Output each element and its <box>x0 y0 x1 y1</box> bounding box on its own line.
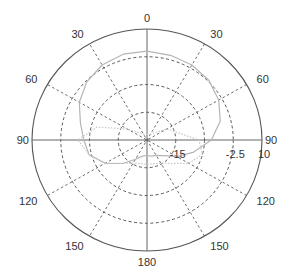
polar-grid <box>32 29 262 251</box>
angle-tick-label: 150 <box>210 240 228 252</box>
radial-tick-label: 10 <box>258 148 270 160</box>
angle-tick-label: 120 <box>19 195 37 207</box>
polar-plot: 0306090120150180150120906030-15-2.510 <box>0 0 289 276</box>
angle-tick-label: 60 <box>25 73 37 85</box>
angle-tick-label: 60 <box>257 73 269 85</box>
radial-tick-label: -15 <box>170 148 186 160</box>
angle-tick-label: 120 <box>257 195 275 207</box>
angle-tick-label: 30 <box>210 28 222 40</box>
data-series <box>78 51 220 164</box>
radial-tick-label: -2.5 <box>226 148 245 160</box>
angle-tick-label: 90 <box>17 134 29 146</box>
series-pattern-a <box>79 51 220 163</box>
angle-tick-label: 180 <box>138 256 156 268</box>
angle-tick-label: 90 <box>265 134 277 146</box>
angle-tick-label: 30 <box>71 28 83 40</box>
angle-tick-label: 0 <box>144 12 150 24</box>
angle-tick-label: 150 <box>65 240 83 252</box>
